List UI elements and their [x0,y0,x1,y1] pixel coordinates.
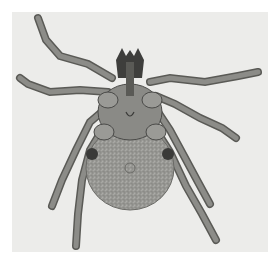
left-spiracle [86,148,98,160]
tick-illustration [0,0,278,263]
right-spiracle [162,148,174,160]
hypostome [126,62,134,96]
image-frame [0,0,278,263]
